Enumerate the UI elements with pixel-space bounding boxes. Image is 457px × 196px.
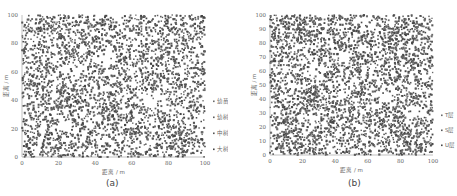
legend-marker xyxy=(213,133,215,135)
y-tick-label: 60 xyxy=(11,69,18,75)
legend: T层S层U层 xyxy=(441,112,455,149)
y-tick-label: 20 xyxy=(259,124,266,130)
y-tick-label: 20 xyxy=(11,126,18,132)
y-axis-label: 距离 / m xyxy=(2,75,10,98)
y-tick-label: 70 xyxy=(259,54,266,60)
legend-marker xyxy=(441,145,443,147)
scatter-plot-a: 020406080100020406080100距离 / m距离 / m幼苗幼树… xyxy=(0,0,228,196)
x-tick-label: 40 xyxy=(92,160,99,166)
caption-a: (a) xyxy=(106,178,119,188)
y-axis-label: 距离 / m xyxy=(250,74,258,97)
legend-label: S层 xyxy=(445,127,455,134)
y-tick-label: 30 xyxy=(259,110,266,116)
y-tick-label: 0 xyxy=(15,154,19,160)
legend-marker xyxy=(213,117,215,119)
legend-label: 幼苗 xyxy=(217,97,228,105)
x-tick-label: 100 xyxy=(428,158,439,164)
x-tick-label: 100 xyxy=(200,160,211,166)
x-tick-label: 80 xyxy=(397,158,404,164)
y-tick-label: 90 xyxy=(259,26,266,32)
panel-b: 0204060801000102030405060708090100距离 / m… xyxy=(228,0,457,196)
legend-marker xyxy=(441,115,443,117)
y-tick-label: 10 xyxy=(259,138,266,144)
x-tick-label: 60 xyxy=(128,160,135,166)
legend-label: 大树 xyxy=(217,145,228,153)
legend-marker xyxy=(213,101,215,103)
data-points xyxy=(269,14,434,156)
x-tick-label: 0 xyxy=(20,160,24,166)
y-tick-label: 100 xyxy=(256,12,267,18)
legend-label: 幼树 xyxy=(217,113,228,121)
x-tick-label: 40 xyxy=(332,158,339,164)
panel-a: 020406080100020406080100距离 / m距离 / m幼苗幼树… xyxy=(0,0,228,196)
y-tick-label: 60 xyxy=(259,68,266,74)
legend-label: T层 xyxy=(444,112,454,119)
x-tick-label: 80 xyxy=(165,160,172,166)
data-points xyxy=(21,14,206,158)
y-tick-label: 80 xyxy=(259,40,266,46)
y-tick-label: 80 xyxy=(11,40,18,46)
scatter-plot-b: 0204060801000102030405060708090100距离 / m… xyxy=(228,0,457,196)
x-tick-label: 20 xyxy=(55,160,62,166)
y-tick-label: 0 xyxy=(263,152,267,158)
x-tick-label: 0 xyxy=(268,158,272,164)
legend-label: U层 xyxy=(445,142,455,149)
y-tick-label: 40 xyxy=(11,97,18,103)
x-axis-label: 距离 / m xyxy=(340,166,363,174)
legend-marker xyxy=(213,149,215,151)
y-tick-label: 100 xyxy=(8,12,19,18)
x-tick-label: 20 xyxy=(299,158,306,164)
x-tick-label: 60 xyxy=(364,158,371,164)
legend-label: 中树 xyxy=(217,129,228,137)
y-tick-label: 40 xyxy=(259,96,266,102)
legend: 幼苗幼树中树大树 xyxy=(213,97,228,153)
legend-marker xyxy=(441,130,443,132)
caption-b: (b) xyxy=(348,178,361,188)
y-tick-label: 50 xyxy=(259,82,266,88)
x-axis-label: 距离 / m xyxy=(102,168,125,176)
